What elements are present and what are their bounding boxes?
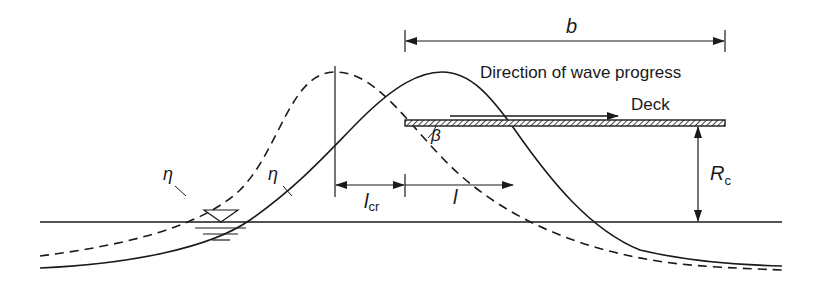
wave-deck-diagram: b Direction of wave progress Deck β Rc l… xyxy=(0,0,820,291)
solid-wave-profile xyxy=(40,72,782,268)
lcr-label: lcr xyxy=(364,190,380,214)
b-label: b xyxy=(566,15,577,37)
rc-label-sub: c xyxy=(724,173,731,188)
lcr-label-sub: cr xyxy=(368,199,380,214)
rc-label-main: R xyxy=(710,162,724,184)
deck-plate xyxy=(405,120,725,126)
eta-dashed-leader xyxy=(175,186,186,196)
l-label: l xyxy=(453,186,458,208)
rc-label: Rc xyxy=(710,162,731,188)
deck-label: Deck xyxy=(631,95,670,114)
dashed-wave-profile xyxy=(40,72,782,270)
eta-dashed-label: η xyxy=(163,164,173,184)
beta-label: β xyxy=(430,126,441,145)
eta-solid-label: η xyxy=(268,164,278,184)
direction-label: Direction of wave progress xyxy=(480,63,681,82)
